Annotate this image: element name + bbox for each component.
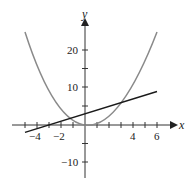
x-tick-label-minus2: −2 bbox=[53, 130, 65, 142]
chart-canvas: x y −4 −2 4 6 20 10 −10 bbox=[0, 0, 194, 192]
x-tick-label-4: 4 bbox=[130, 130, 136, 142]
x-tick-label-minus4: −4 bbox=[29, 130, 41, 142]
line-y-equals-x-plus-3 bbox=[25, 92, 157, 133]
x-axis-label: x bbox=[178, 118, 185, 132]
y-tick-label-20: 20 bbox=[67, 44, 79, 56]
x-tick-label-6: 6 bbox=[154, 130, 160, 142]
y-tick-label-minus10: −10 bbox=[61, 156, 79, 168]
y-axis-label: y bbox=[81, 7, 88, 21]
y-tick-label-10: 10 bbox=[67, 81, 79, 93]
